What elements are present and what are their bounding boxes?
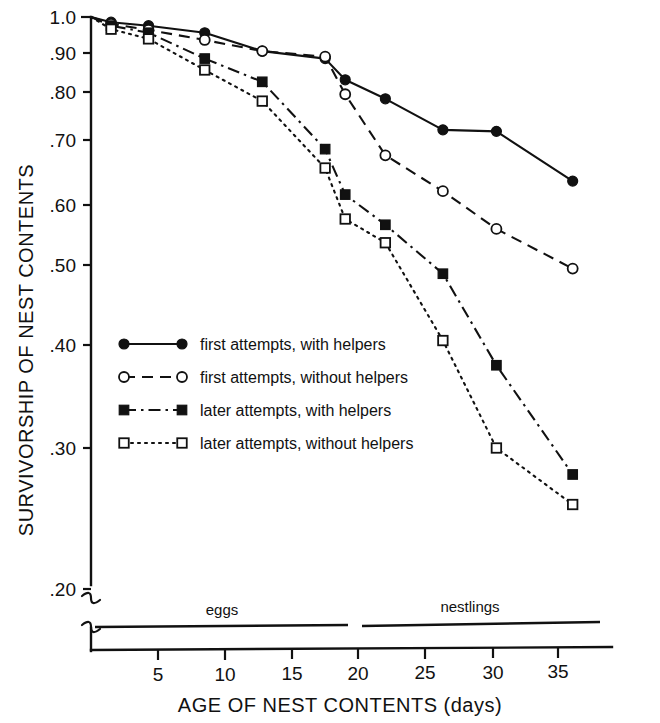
y-tick-label-4: .60 (50, 195, 76, 216)
data-point (320, 163, 330, 173)
legend-label-2: later attempts, with helpers (200, 402, 391, 419)
x-axis-title: AGE OF NEST CONTENTS (days) (178, 694, 502, 716)
x-tick-label-3: 20 (347, 663, 368, 684)
data-point (380, 94, 390, 104)
data-point (381, 238, 391, 248)
data-point (320, 52, 330, 62)
data-point (340, 214, 350, 224)
x-tick-label-0: 5 (153, 664, 164, 685)
data-point (492, 361, 502, 371)
series-0 (91, 17, 578, 186)
legend-marker-open-square-icon (119, 438, 129, 448)
x-tick-label-6: 35 (547, 661, 568, 682)
legend-item-3[interactable]: later attempts, without helpers (119, 435, 413, 452)
x-tick-label-4: 25 (414, 662, 435, 683)
legend-marker-open-circle-icon (119, 372, 129, 382)
y-axis-title: SURVIVORSHIP OF NEST CONTENTS (15, 164, 37, 536)
legend-marker-filled-circle-icon (119, 339, 129, 349)
series-line-3 (91, 17, 573, 505)
figure-container: 1.0 .90 .80 .70 .60 .50 .40 .30 .20 SURV… (0, 0, 660, 723)
data-point (340, 190, 350, 200)
legend-marker-filled-square-icon (177, 405, 187, 415)
x-tick-labels: 5 10 15 20 25 30 35 (153, 661, 569, 685)
data-point (380, 150, 390, 160)
x-tick-label-2: 15 (281, 663, 302, 684)
phase-bar-nestlings (362, 622, 600, 626)
data-point (438, 186, 448, 196)
x-axis-line (91, 647, 612, 650)
legend-item-2[interactable]: later attempts, with helpers (119, 402, 391, 419)
y-ticks (81, 17, 91, 589)
x-tick-label-5: 30 (482, 662, 503, 683)
data-point (320, 144, 330, 154)
data-point (492, 443, 502, 453)
legend-item-0[interactable]: first attempts, with helpers (119, 336, 386, 353)
legend-item-1[interactable]: first attempts, without helpers (119, 369, 408, 386)
legend-marker-filled-square-icon (119, 405, 129, 415)
survivorship-chart: 1.0 .90 .80 .70 .60 .50 .40 .30 .20 SURV… (0, 0, 660, 723)
legend-label-0: first attempts, with helpers (200, 336, 386, 353)
legend: first attempts, with helpersfirst attemp… (119, 336, 413, 452)
legend-marker-filled-circle-icon (177, 339, 187, 349)
data-point (340, 89, 350, 99)
data-point (438, 336, 448, 346)
x-axis (91, 647, 612, 660)
legend-label-1: first attempts, without helpers (200, 369, 408, 386)
y-tick-label-5: .50 (50, 255, 76, 276)
y-tick-label-2: .80 (50, 82, 76, 103)
data-point (144, 34, 154, 44)
legend-marker-open-square-icon (177, 438, 187, 448)
y-axis (82, 17, 100, 651)
data-point (491, 126, 501, 136)
y-tick-label-7: .30 (50, 438, 76, 459)
data-point (568, 176, 578, 186)
data-point (381, 220, 391, 230)
series-line-0 (91, 17, 573, 181)
data-point (200, 65, 210, 75)
data-point (568, 500, 578, 510)
data-point (200, 35, 210, 45)
data-point (438, 125, 448, 135)
phase-bars: eggs nestlings (95, 598, 600, 627)
x-tick-label-1: 10 (214, 664, 235, 685)
data-point (200, 54, 210, 64)
y-axis-break-upper-icon (82, 593, 100, 603)
data-point (340, 75, 350, 85)
y-tick-label-0: 1.0 (50, 7, 76, 28)
data-point (568, 264, 578, 274)
series-1 (91, 17, 578, 274)
data-point (257, 46, 267, 56)
y-tick-label-8: .20 (50, 579, 76, 600)
y-tick-label-3: .70 (50, 130, 76, 151)
data-point (491, 224, 501, 234)
data-point (568, 470, 578, 480)
data-point (106, 24, 116, 33)
legend-marker-open-circle-icon (177, 372, 187, 382)
data-point (258, 77, 268, 87)
data-point (438, 269, 448, 279)
y-tick-label-6: .40 (50, 335, 76, 356)
phase-label-eggs: eggs (206, 601, 239, 618)
phase-bar-eggs (95, 625, 348, 627)
y-tick-label-1: .90 (50, 43, 76, 64)
legend-label-3: later attempts, without helpers (200, 435, 413, 452)
y-tick-labels: 1.0 .90 .80 .70 .60 .50 .40 .30 .20 (50, 7, 76, 600)
phase-label-nestlings: nestlings (440, 598, 499, 615)
data-point (258, 96, 268, 106)
